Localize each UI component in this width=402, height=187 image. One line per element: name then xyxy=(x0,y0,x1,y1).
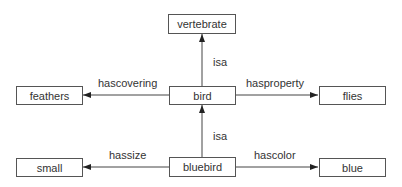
node-label: small xyxy=(37,162,63,174)
node-label: feathers xyxy=(30,90,70,102)
node-blue: blue xyxy=(319,158,386,177)
node-flies: flies xyxy=(319,86,386,105)
edge-label-hasproperty: hasproperty xyxy=(246,78,304,89)
edge-label-hascolor: hascolor xyxy=(254,150,296,161)
node-vertebrate: vertebrate xyxy=(168,14,236,34)
node-feathers: feathers xyxy=(16,86,83,105)
node-label: vertebrate xyxy=(177,18,227,30)
edge-label-isa-top: isa xyxy=(213,57,227,68)
node-label: bluebird xyxy=(183,161,222,173)
edge-label-hascovering: hascovering xyxy=(98,78,157,89)
node-bird: bird xyxy=(169,86,236,105)
node-label: bird xyxy=(193,90,211,102)
node-small: small xyxy=(16,158,83,177)
node-label: flies xyxy=(343,90,363,102)
node-label: blue xyxy=(342,162,363,174)
edge-label-isa-bottom: isa xyxy=(213,131,227,142)
edge-label-hassize: hassize xyxy=(109,150,146,161)
node-bluebird: bluebird xyxy=(169,157,236,177)
